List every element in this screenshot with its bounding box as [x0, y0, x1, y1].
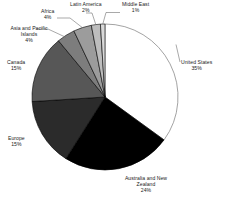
leader-line-middle-east — [103, 13, 120, 25]
pie-label-australia-new-zealand-percent: 24% — [115, 187, 177, 193]
pie-label-united-states: United States 35% — [181, 59, 212, 71]
pie-label-europe: Europe 15% — [8, 135, 25, 147]
pie-label-africa-percent: 4% — [41, 14, 54, 20]
leader-line-africa — [57, 18, 83, 28]
pie-label-europe-percent: 15% — [8, 141, 25, 147]
pie-label-asia-and-pacific-islands-percent: 4% — [2, 37, 56, 43]
pie-slices — [32, 24, 178, 170]
pie-label-united-states-percent: 35% — [181, 65, 212, 71]
pie-label-canada: Canada 15% — [7, 59, 25, 71]
pie-label-africa: Africa 4% — [41, 8, 54, 20]
pie-label-asia-and-pacific-islands: Asia and Pacific Islands 4% — [2, 25, 56, 43]
leader-line-latin-america — [86, 13, 96, 25]
pie-label-australia-new-zealand: Australia and New Zealand 24% — [115, 175, 177, 193]
pie-label-latin-america: Latin America 2% — [70, 1, 102, 13]
pie-chart: United States 35% Australia and New Zeal… — [0, 0, 226, 200]
pie-label-middle-east-percent: 1% — [122, 7, 149, 13]
pie-label-middle-east: Middle East 1% — [122, 1, 149, 13]
pie-label-latin-america-percent: 2% — [70, 7, 102, 13]
pie-label-canada-percent: 15% — [7, 65, 25, 71]
leader-line-united-states — [176, 45, 180, 63]
